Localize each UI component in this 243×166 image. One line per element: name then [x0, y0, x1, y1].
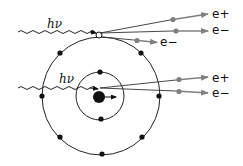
electron-dot [39, 93, 44, 98]
electron-particle [173, 28, 178, 33]
electron-dot [99, 151, 104, 156]
electron-dot [97, 69, 102, 74]
photon-label-top: hν [47, 17, 62, 31]
ejected-electron-particle [134, 38, 139, 43]
photon-arrow-bottom [90, 88, 98, 89]
label-top-positron: e+ [212, 7, 229, 21]
electron-dot [98, 116, 103, 121]
top-pair-tracks [100, 14, 208, 43]
label-bottom-electron: e− [212, 86, 229, 100]
label-ejected-electron: e− [160, 35, 177, 49]
positron-particle [170, 17, 175, 22]
electron-dot [139, 134, 144, 139]
outer-shell-electrons [39, 50, 161, 156]
nucleus [93, 91, 105, 103]
photon-wave-bottom [18, 87, 96, 90]
electron-dot [57, 50, 62, 55]
electron-dot [156, 93, 161, 98]
photon-label-bottom: hν [59, 72, 74, 86]
label-top-electron: e− [212, 23, 229, 37]
label-bottom-positron: e+ [212, 71, 229, 85]
electron-dot [138, 50, 143, 55]
photon-arrow-top [90, 32, 96, 33]
electron-dot [57, 134, 62, 139]
positron-particle [176, 77, 181, 82]
electron-particle [176, 89, 181, 94]
atom-diagram: hν hν e+ e− e− e+ e− [0, 0, 243, 166]
bottom-pair-tracks [100, 77, 208, 94]
